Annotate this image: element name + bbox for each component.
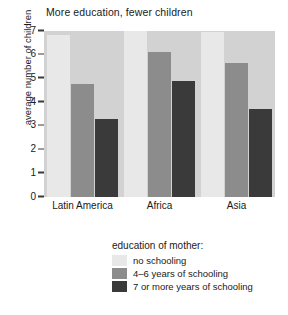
- bar: [124, 31, 147, 197]
- y-tick-label: 1: [30, 167, 36, 178]
- y-tick-label: 7: [30, 25, 36, 36]
- bar: [148, 52, 171, 197]
- bar: [71, 84, 94, 197]
- bar: [225, 63, 248, 197]
- legend-item: 7 or more years of schooling: [112, 281, 253, 292]
- y-tick-label: 3: [30, 119, 36, 130]
- legend-label: 4–6 years of schooling: [133, 268, 228, 279]
- legend-swatch: [112, 268, 127, 279]
- chart-legend: education of mother: no schooling4–6 yea…: [112, 240, 253, 294]
- chart-title: More education, fewer children: [46, 6, 193, 18]
- y-tick: 0: [0, 196, 44, 197]
- y-tick: 7: [0, 30, 44, 31]
- bar-group: [121, 31, 198, 197]
- legend-item: no schooling: [112, 255, 253, 266]
- legend-label: no schooling: [133, 255, 186, 266]
- y-tick-label: 5: [30, 72, 36, 83]
- legend-title: education of mother:: [112, 240, 253, 251]
- x-axis-label: Latin America: [44, 200, 121, 212]
- y-tick-label: 6: [30, 48, 36, 59]
- y-tick-label: 0: [30, 191, 36, 202]
- chart-figure: More education, fewer children average n…: [0, 0, 288, 315]
- y-tick: 2: [0, 148, 44, 149]
- plot-area: 01234567: [44, 31, 275, 197]
- bar: [201, 32, 224, 197]
- x-axis-labels: Latin AmericaAfricaAsia: [44, 200, 275, 212]
- y-tick: 6: [0, 53, 44, 54]
- bar: [249, 109, 272, 197]
- bars-layer: [44, 31, 275, 197]
- bar-group: [44, 31, 121, 197]
- y-tick: 3: [0, 124, 44, 125]
- legend-rows: no schooling4–6 years of schooling7 or m…: [112, 255, 253, 292]
- bar-group: [198, 31, 275, 197]
- bar: [47, 35, 70, 197]
- y-tick: 1: [0, 172, 44, 173]
- bar: [95, 119, 118, 197]
- x-axis-label: Asia: [198, 200, 275, 212]
- y-tick-label: 4: [30, 96, 36, 107]
- legend-label: 7 or more years of schooling: [133, 281, 253, 292]
- y-tick: 5: [0, 77, 44, 78]
- legend-item: 4–6 years of schooling: [112, 268, 253, 279]
- bar: [172, 81, 195, 197]
- y-tick-label: 2: [30, 143, 36, 154]
- x-axis-label: Africa: [121, 200, 198, 212]
- legend-swatch: [112, 255, 127, 266]
- y-tick: 4: [0, 101, 44, 102]
- legend-swatch: [112, 281, 127, 292]
